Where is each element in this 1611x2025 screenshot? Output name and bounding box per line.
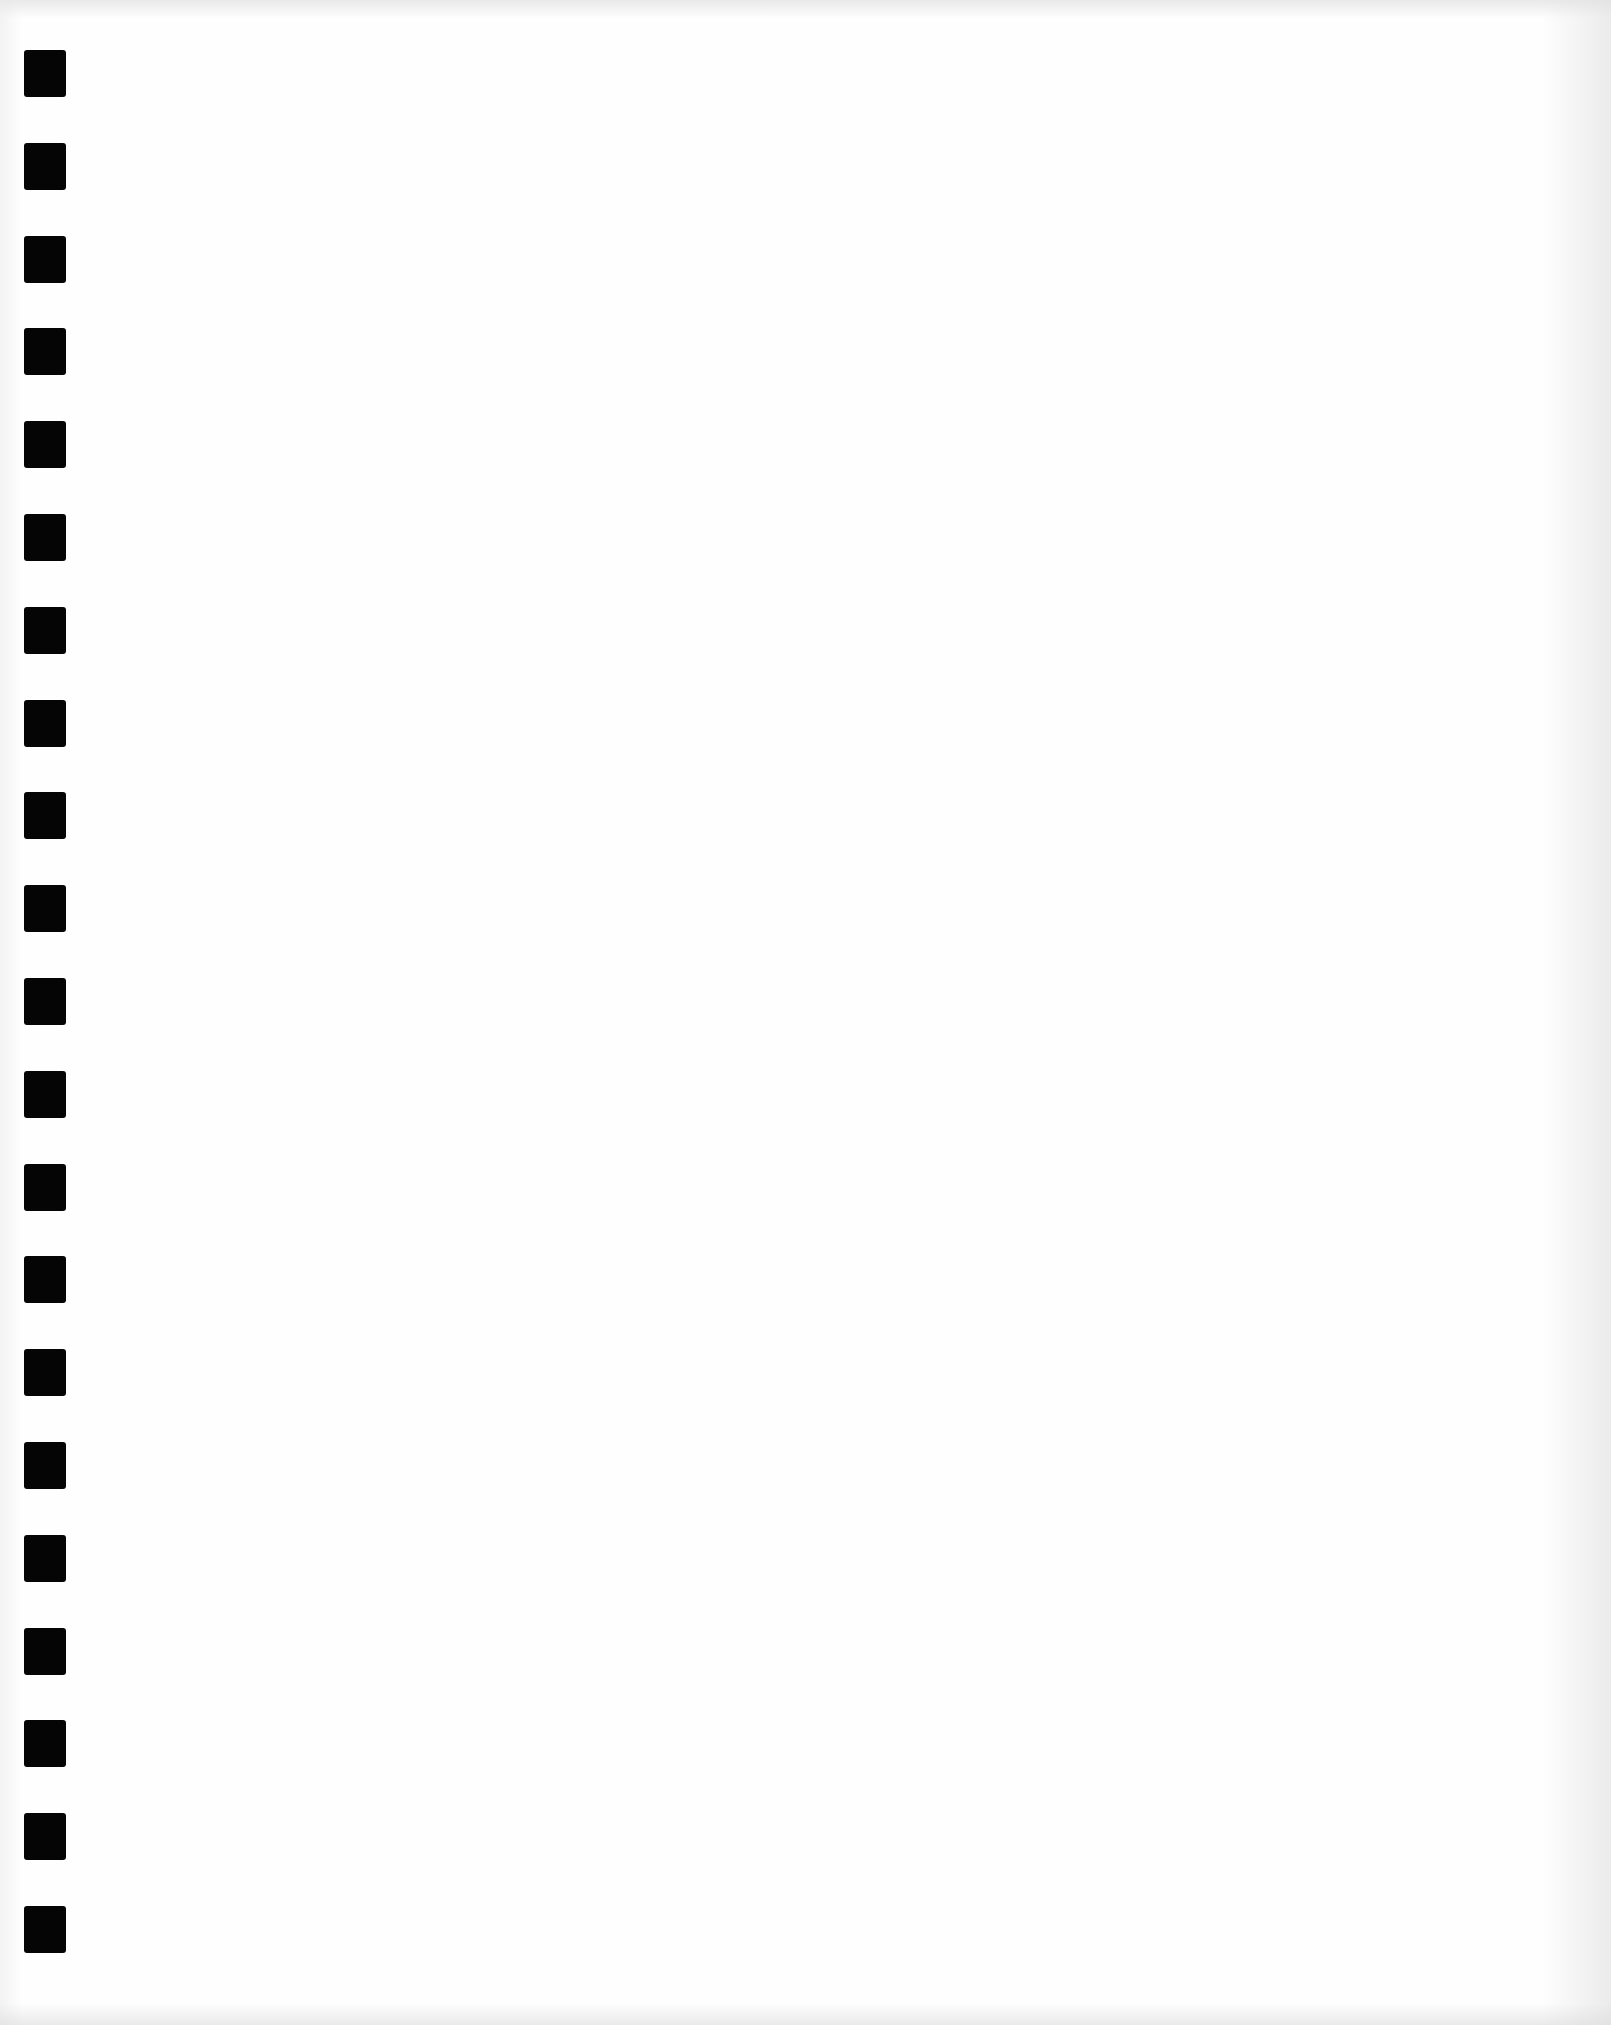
- binding-hole-icon: [24, 885, 66, 932]
- binding-hole-icon: [24, 1164, 66, 1211]
- binding-hole-icon: [24, 1720, 66, 1767]
- binding-hole-icon: [24, 1071, 66, 1118]
- binding-holes-strip: [0, 0, 90, 2025]
- binding-hole-icon: [24, 607, 66, 654]
- scanned-page: [0, 0, 1611, 2025]
- binding-hole-icon: [24, 1628, 66, 1675]
- binding-hole-icon: [24, 143, 66, 190]
- binding-hole-icon: [24, 978, 66, 1025]
- binding-hole-icon: [24, 1442, 66, 1489]
- binding-hole-icon: [24, 514, 66, 561]
- binding-hole-icon: [24, 792, 66, 839]
- binding-hole-icon: [24, 1813, 66, 1860]
- scan-shadow-bottom: [0, 2003, 1611, 2025]
- scan-shadow-right: [1541, 0, 1611, 2025]
- binding-hole-icon: [24, 421, 66, 468]
- page-body: [110, 40, 1531, 1985]
- binding-hole-icon: [24, 1535, 66, 1582]
- scan-shadow-top: [0, 0, 1611, 18]
- binding-hole-icon: [24, 700, 66, 747]
- binding-hole-icon: [24, 328, 66, 375]
- binding-hole-icon: [24, 1906, 66, 1953]
- binding-hole-icon: [24, 236, 66, 283]
- binding-hole-icon: [24, 1256, 66, 1303]
- binding-hole-icon: [24, 50, 66, 97]
- binding-hole-icon: [24, 1349, 66, 1396]
